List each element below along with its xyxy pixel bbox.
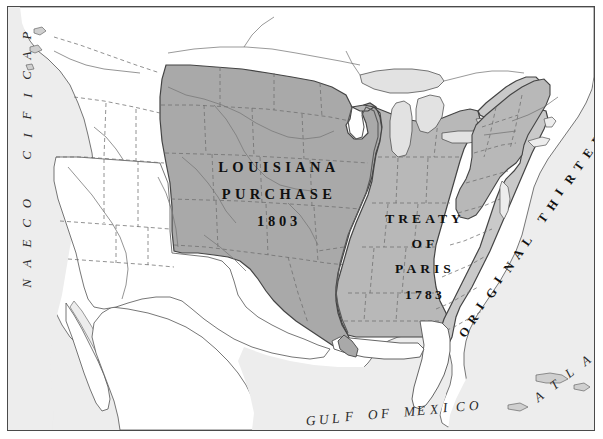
label-glyph: U xyxy=(318,411,329,428)
label-glyph: P xyxy=(20,32,33,40)
label-glyph: M xyxy=(403,404,416,421)
label-glyph: L xyxy=(331,410,340,427)
pacific-ocean-label: PACIFICOCEAN xyxy=(22,29,31,297)
label-glyph: C xyxy=(20,151,33,160)
label-glyph: F xyxy=(344,409,354,426)
label-glyph: I xyxy=(20,93,33,97)
map-geography xyxy=(8,7,594,430)
label-glyph: N xyxy=(20,279,33,288)
label-glyph: G xyxy=(305,413,316,430)
label-glyph: E xyxy=(416,402,426,419)
label-glyph: F xyxy=(20,112,33,120)
label-glyph: O xyxy=(367,407,378,424)
label-glyph: O xyxy=(468,398,479,415)
label-glyph: F xyxy=(380,406,390,423)
label-glyph: E xyxy=(20,240,33,248)
label-glyph: A xyxy=(20,260,33,268)
map-frame-border: LOUISIANA PURCHASE 1803 TREATY OF PARIS … xyxy=(7,6,595,431)
historical-map-figure: LOUISIANA PURCHASE 1803 TREATY OF PARIS … xyxy=(0,0,603,439)
label-glyph: C xyxy=(455,399,465,416)
label-glyph: O xyxy=(20,199,33,208)
label-glyph: C xyxy=(20,219,33,228)
label-glyph: A xyxy=(20,52,33,60)
label-glyph: I xyxy=(20,133,33,137)
lake-michigan-icon xyxy=(390,101,412,157)
label-glyph: C xyxy=(20,71,33,80)
label-glyph: X xyxy=(429,401,439,418)
label-glyph: I xyxy=(442,400,448,416)
